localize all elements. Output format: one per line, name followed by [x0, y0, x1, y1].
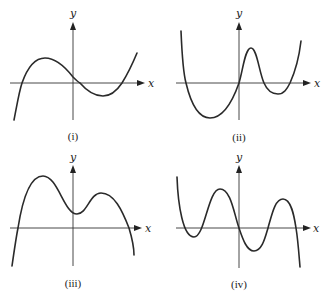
polynomial-graphs-figure: x y (i) x y (ii) x y (iii) x y (iv)	[0, 0, 325, 296]
x-axis-arrow-icon	[303, 225, 311, 231]
x-axis-label: x	[313, 222, 320, 235]
y-axis-arrow-icon	[236, 165, 242, 173]
x-axis-arrow-icon	[134, 225, 142, 231]
x-axis-arrow-icon	[137, 80, 145, 86]
y-axis-label: y	[235, 7, 243, 20]
panel-i: x y (i)	[10, 7, 155, 143]
polynomial-curve	[177, 177, 300, 267]
y-axis-arrow-icon	[70, 22, 76, 30]
panel-iii: x y (iii)	[10, 151, 152, 290]
y-axis-arrow-icon	[236, 22, 242, 30]
panel-caption: (iv)	[231, 278, 247, 291]
x-axis-label: x	[145, 222, 152, 235]
x-axis-arrow-icon	[303, 80, 311, 86]
panel-caption: (iii)	[65, 277, 82, 290]
polynomial-curve	[14, 53, 137, 120]
panel-caption: (i)	[68, 130, 79, 143]
y-axis-label: y	[235, 151, 243, 164]
panel-iv: x y (iv)	[176, 151, 320, 291]
y-axis-label: y	[69, 151, 77, 164]
x-axis-label: x	[148, 77, 155, 90]
y-axis-arrow-icon	[70, 165, 76, 173]
y-axis-label: y	[69, 7, 77, 20]
panel-ii: x y (ii)	[176, 7, 321, 144]
x-axis-label: x	[314, 77, 321, 90]
panel-caption: (ii)	[232, 131, 246, 144]
polynomial-curve	[181, 31, 301, 118]
